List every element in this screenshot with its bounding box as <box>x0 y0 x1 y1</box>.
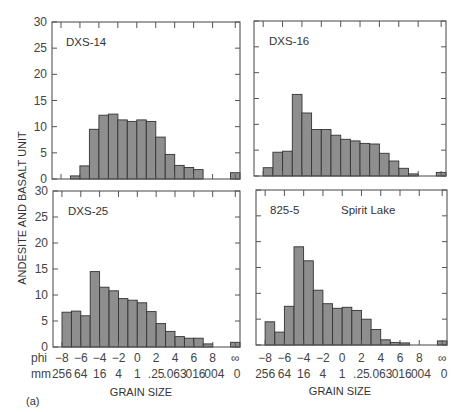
phi-tick-label: 2 <box>153 351 160 365</box>
y-tick-label: 10 <box>34 120 48 134</box>
histogram-bar <box>362 319 372 345</box>
histogram-bar <box>184 338 193 347</box>
histogram-bar <box>147 312 156 347</box>
histogram-bar <box>90 272 99 347</box>
y-tick-label: 25 <box>35 210 49 224</box>
panel-label-dxs-14: DXS-14 <box>66 36 107 48</box>
mm-row-label-left: mm <box>31 367 51 381</box>
y-tick-labels-top: 051015202530 <box>34 15 48 186</box>
y-tick-label: 5 <box>40 146 47 160</box>
y-tick-label: 25 <box>34 41 48 55</box>
x-tick-labels-right: −8−6−4−202468∞256641641.25.063.016.0040 <box>255 351 448 381</box>
x-tick-labels-left: −8−6−4−202468∞256641641.25.063.016.0040 <box>52 351 241 381</box>
mm-tick-label: 0 <box>234 367 241 381</box>
histogram-bar <box>156 324 165 347</box>
y-tick-labels-bottom: 051015202530 <box>35 184 49 354</box>
histogram-bar <box>109 291 118 347</box>
phi-tick-label: −6 <box>74 351 88 365</box>
histogram-bar <box>137 303 146 347</box>
histogram-bar <box>341 139 351 176</box>
mm-tick-label: .25 <box>353 367 370 381</box>
phi-tick-label: 4 <box>377 351 384 365</box>
phi-tick-label: −4 <box>297 351 311 365</box>
phi-tick-label: −8 <box>258 351 272 365</box>
mm-tick-label: .004 <box>408 367 432 381</box>
phi-tick-label: ∞ <box>438 351 447 365</box>
histogram-bar <box>342 307 352 345</box>
y-tick-label: 20 <box>34 67 48 81</box>
y-tick-label: 30 <box>35 184 49 198</box>
phi-tick-label: −2 <box>112 351 126 365</box>
histogram-bar <box>89 129 99 179</box>
panel-sublabel-spirit-lake: Spirit Lake <box>341 204 395 216</box>
phi-tick-label: −6 <box>278 351 292 365</box>
y-tick-label: 15 <box>34 94 48 108</box>
histogram-bar <box>283 151 293 176</box>
mm-tick-label: 4 <box>115 367 122 381</box>
mm-tick-label: 1 <box>134 367 141 381</box>
y-tick-label: 15 <box>35 262 49 276</box>
grain-size-histogram-figure: ANDESITE AND BASALT UNIT DXS-14 DXS-16 D… <box>0 0 467 412</box>
phi-tick-label: 8 <box>416 351 423 365</box>
phi-tick-label: −2 <box>316 351 330 365</box>
histogram-bar <box>294 247 304 345</box>
histogram-bar <box>381 340 391 345</box>
phi-tick-label: −8 <box>55 351 69 365</box>
mm-tick-label: 4 <box>320 367 327 381</box>
panel-label-dxs-25: DXS-25 <box>68 205 108 217</box>
y-tick-label: 5 <box>41 314 48 328</box>
histogram-bar <box>273 152 283 176</box>
histogram-bar <box>62 312 71 347</box>
mm-tick-label: 64 <box>278 367 292 381</box>
panel-label-dxs-16: DXS-16 <box>269 35 309 47</box>
phi-tick-label: 6 <box>397 351 404 365</box>
histogram-bar <box>166 331 175 347</box>
histogram-bar <box>80 166 90 179</box>
histogram-bar <box>108 114 118 179</box>
histogram-bar <box>137 120 147 179</box>
mm-tick-label: .004 <box>201 367 225 381</box>
mm-tick-label: 64 <box>74 367 88 381</box>
histogram-bar <box>194 338 203 347</box>
mm-tick-label: .25 <box>148 367 165 381</box>
histogram-bar <box>263 168 273 176</box>
y-tick-label: 20 <box>35 236 49 250</box>
histogram-bar <box>350 141 360 176</box>
histogram-bar <box>302 113 312 176</box>
histogram-bar <box>379 153 389 176</box>
panel-caption: (a) <box>26 395 39 407</box>
histogram-bar <box>128 300 137 347</box>
histogram-bar <box>156 137 166 179</box>
mm-tick-label: 1 <box>339 367 346 381</box>
mm-tick-label: 0 <box>441 367 448 381</box>
histogram-bar <box>352 310 362 345</box>
histogram-bar <box>275 332 285 345</box>
histogram-bar <box>370 144 380 176</box>
mm-tick-label: 256 <box>255 367 275 381</box>
histogram-bar <box>175 165 185 179</box>
histogram-bar <box>71 311 80 347</box>
histogram-bar <box>292 94 302 176</box>
histogram-bar <box>389 161 399 176</box>
histogram-bar <box>265 322 275 345</box>
panel-label-825-5: 825-5 <box>270 204 299 216</box>
histogram-bar <box>127 121 137 179</box>
phi-tick-label: 6 <box>191 351 198 365</box>
mm-tick-label: 16 <box>93 367 107 381</box>
histogram-bar <box>323 304 333 345</box>
phi-tick-label: 4 <box>172 351 179 365</box>
phi-tick-label: 0 <box>134 351 141 365</box>
phi-tick-label: 0 <box>339 351 346 365</box>
histogram-bar <box>371 330 381 346</box>
histogram-bar <box>399 168 409 176</box>
histogram-bar <box>81 316 90 347</box>
histogram-bar <box>304 261 314 345</box>
histogram-bar <box>331 135 341 176</box>
histogram-bar <box>333 308 343 345</box>
phi-row-label-left: phi <box>31 351 47 365</box>
y-axis-title: ANDESITE AND BASALT UNIT <box>16 131 28 285</box>
histogram-bar <box>313 290 323 345</box>
phi-tick-label: ∞ <box>231 351 240 365</box>
phi-tick-label: −4 <box>93 351 107 365</box>
histogram-bar <box>100 287 109 347</box>
